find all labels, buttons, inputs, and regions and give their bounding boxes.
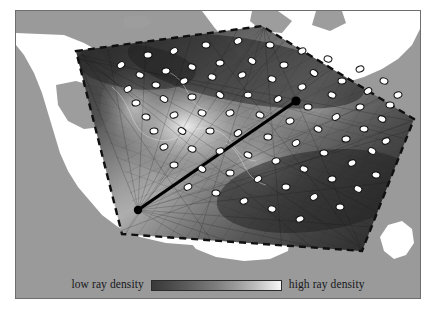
station-marker	[320, 150, 329, 157]
cross-section-start-marker	[134, 206, 142, 214]
station-marker	[360, 125, 369, 132]
station-marker	[244, 92, 252, 98]
station-marker	[264, 134, 272, 140]
station-marker	[188, 94, 196, 101]
station-marker	[150, 128, 158, 135]
station-marker	[170, 162, 179, 169]
station-marker	[152, 81, 161, 88]
station-marker	[338, 78, 346, 84]
station-marker	[132, 99, 141, 106]
figure-page: low ray density high ray density	[0, 0, 437, 316]
ray-density-colorbar	[151, 280, 282, 291]
legend-strip: low ray density high ray density	[16, 272, 420, 298]
legend-high-label: high ray density	[289, 279, 365, 291]
station-marker	[280, 62, 288, 68]
station-marker	[202, 42, 211, 49]
legend-low-label: low ray density	[71, 279, 143, 291]
ray-density-map	[16, 11, 420, 272]
station-marker	[216, 60, 225, 67]
station-marker	[226, 170, 234, 176]
station-marker	[304, 104, 312, 111]
station-marker	[144, 52, 152, 58]
station-marker	[206, 128, 214, 134]
station-marker	[342, 135, 351, 142]
cross-section-end-marker	[291, 96, 300, 105]
figure-frame: low ray density high ray density	[15, 10, 421, 299]
station-marker	[336, 204, 345, 211]
station-marker	[282, 184, 290, 190]
map-panel	[16, 11, 420, 272]
station-marker	[386, 102, 394, 109]
